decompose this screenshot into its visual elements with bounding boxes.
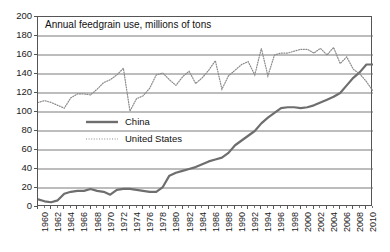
chart-title: Annual feedgrain use, millions of tons xyxy=(45,19,211,31)
chart-container: 020406080100120140160180200 Annual feedg… xyxy=(0,0,390,252)
x-tick-mark xyxy=(57,206,58,208)
x-tick-mark xyxy=(76,206,77,209)
x-tick-mark xyxy=(306,206,307,208)
x-tick-mark xyxy=(162,206,163,208)
x-tick-mark xyxy=(188,206,189,208)
x-tick-mark xyxy=(103,206,104,209)
x-tick-mark xyxy=(260,206,261,209)
x-tick-label: 2006 xyxy=(343,212,352,232)
y-tick-label: 60 xyxy=(21,144,32,154)
x-tick-mark xyxy=(214,206,215,208)
x-tick-mark xyxy=(267,206,268,208)
x-tick-mark xyxy=(168,206,169,209)
y-tick-label: 20 xyxy=(21,182,32,192)
x-tick-mark xyxy=(280,206,281,208)
x-tick-label: 1972 xyxy=(120,212,129,232)
x-tick-label: 1982 xyxy=(186,212,195,232)
y-tick-label: 100 xyxy=(16,106,32,116)
legend-item-china: China xyxy=(86,113,182,130)
x-tick-mark xyxy=(346,206,347,208)
x-tick-mark xyxy=(136,206,137,208)
x-tick-mark xyxy=(333,206,334,208)
x-tick-label: 2008 xyxy=(356,212,365,232)
x-tick-label: 1976 xyxy=(146,212,155,232)
x-tick-mark xyxy=(352,206,353,209)
x-tick-mark xyxy=(372,206,373,208)
x-tick-mark xyxy=(359,206,360,208)
x-tick-mark xyxy=(208,206,209,209)
plot-area xyxy=(37,16,372,206)
x-tick-mark xyxy=(247,206,248,209)
x-tick-label: 1962 xyxy=(54,212,63,232)
x-tick-mark xyxy=(300,206,301,209)
x-tick-label: 1988 xyxy=(225,212,234,232)
x-tick-mark xyxy=(201,206,202,208)
x-tick-mark xyxy=(96,206,97,208)
x-tick-label: 1960 xyxy=(41,212,50,232)
x-tick-label: 1994 xyxy=(264,212,273,232)
x-tick-mark xyxy=(116,206,117,209)
y-tick-label: 40 xyxy=(21,163,32,173)
x-tick-mark xyxy=(326,206,327,209)
x-tick-mark xyxy=(182,206,183,209)
legend-label-united-states: United States xyxy=(125,134,182,144)
x-tick-label: 1986 xyxy=(212,212,221,232)
x-tick-mark xyxy=(129,206,130,209)
x-tick-mark xyxy=(142,206,143,209)
plot-svg xyxy=(38,17,373,207)
x-tick-mark xyxy=(319,206,320,208)
x-tick-mark xyxy=(122,206,123,208)
x-tick-mark xyxy=(365,206,366,209)
y-tick-label: 120 xyxy=(16,87,32,97)
x-tick-label: 1964 xyxy=(67,212,76,232)
x-tick-mark xyxy=(227,206,228,208)
x-tick-label: 1996 xyxy=(277,212,286,232)
x-tick-mark xyxy=(149,206,150,208)
dotted-line-icon xyxy=(86,134,118,144)
x-tick-mark xyxy=(63,206,64,209)
x-tick-label: 2002 xyxy=(317,212,326,232)
y-tick-label: 80 xyxy=(21,125,32,135)
x-tick-mark xyxy=(90,206,91,209)
y-axis: 020406080100120140160180200 xyxy=(0,16,37,206)
x-tick-mark xyxy=(234,206,235,209)
x-tick-label: 1990 xyxy=(238,212,247,232)
x-tick-label: 1992 xyxy=(251,212,260,232)
x-tick-label: 1974 xyxy=(133,212,142,232)
x-tick-mark xyxy=(70,206,71,208)
y-tick-label: 0 xyxy=(27,201,32,211)
solid-line-icon xyxy=(86,117,118,127)
x-tick-label: 2010 xyxy=(369,212,378,232)
x-tick-mark xyxy=(241,206,242,208)
y-tick-label: 180 xyxy=(16,30,32,40)
x-tick-mark xyxy=(44,206,45,208)
x-tick-mark xyxy=(83,206,84,208)
x-tick-label: 1970 xyxy=(107,212,116,232)
x-tick-mark xyxy=(195,206,196,209)
x-tick-label: 2004 xyxy=(330,212,339,232)
x-tick-mark xyxy=(313,206,314,209)
x-tick-mark xyxy=(155,206,156,209)
x-tick-mark xyxy=(37,206,38,209)
chart-legend: China United States xyxy=(86,113,182,147)
x-tick-label: 1980 xyxy=(172,212,181,232)
y-tick-label: 200 xyxy=(16,11,32,21)
x-tick-label: 1966 xyxy=(80,212,89,232)
x-tick-mark xyxy=(109,206,110,208)
x-tick-mark xyxy=(50,206,51,209)
y-tick-label: 140 xyxy=(16,68,32,78)
y-tick-label: 160 xyxy=(16,49,32,59)
legend-label-china: China xyxy=(125,117,150,127)
x-tick-mark xyxy=(273,206,274,209)
x-tick-label: 1998 xyxy=(291,212,300,232)
x-tick-label: 2000 xyxy=(304,212,313,232)
x-tick-mark xyxy=(287,206,288,209)
x-tick-mark xyxy=(221,206,222,209)
x-tick-label: 1968 xyxy=(94,212,103,232)
x-tick-mark xyxy=(293,206,294,208)
x-tick-label: 1978 xyxy=(159,212,168,232)
x-tick-mark xyxy=(339,206,340,209)
legend-item-united-states: United States xyxy=(86,130,182,147)
x-tick-mark xyxy=(254,206,255,208)
x-tick-mark xyxy=(175,206,176,208)
